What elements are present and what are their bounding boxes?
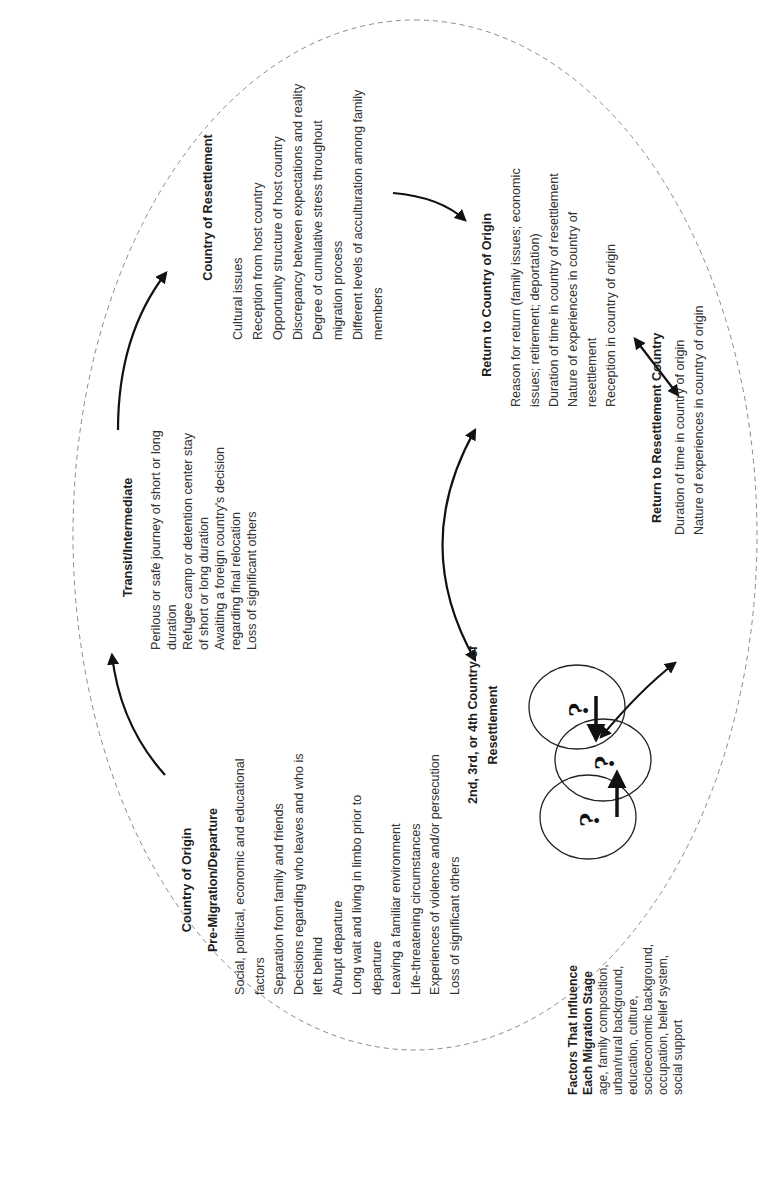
factors-title: Factors That Influence [566, 895, 581, 1095]
factors-line: occupation, belief system, [656, 895, 671, 1095]
list-item: Degree of cumulative stress throughout m… [308, 75, 348, 340]
list-item: Awaiting a foreign country's decision re… [212, 425, 244, 650]
question-mark-icon: ? [587, 755, 620, 770]
factors-title-line-2: Each Migration Stage [581, 895, 596, 1095]
list-item: Nature of experiences in country of orig… [690, 275, 709, 535]
list-item: Social, political, economic and educatio… [231, 745, 270, 995]
stage-item-list: Perilous or safe journey of short or lon… [148, 425, 260, 650]
stage-title: Transit/Intermediate [120, 425, 136, 650]
stage-country-of-origin: Country of Origin Pre-Migration/Departur… [178, 655, 465, 995]
list-item: Abrupt departure [329, 745, 349, 995]
stage-item-list: Cultural issues Reception from host coun… [228, 75, 388, 340]
stage-item-list: Duration of time in country of origin Na… [671, 275, 709, 535]
list-item: Separation from family and friends [270, 745, 290, 995]
factors-line: education, culture, [626, 895, 641, 1095]
double-arrow-circles-to-return-resettlement [601, 663, 675, 737]
arrow-resettlement-to-return [393, 193, 465, 220]
list-item: Cultural issues [228, 75, 248, 340]
stage-title-line-2: Resettlement [483, 645, 503, 805]
stage-title: Country of Resettlement [198, 75, 218, 340]
list-item: Discrepancy between expectations and rea… [288, 75, 308, 340]
stage-subtitle: Pre-Migration/Departure [204, 765, 224, 995]
stage-nth-resettlement: 2nd, 3rd, or 4th Country of Resettlement [463, 645, 503, 805]
list-item: Different levels of acculturation among … [348, 75, 388, 340]
list-item: Reception in country of origin [602, 165, 621, 407]
list-item: Perilous or safe journey of short or lon… [148, 425, 180, 650]
question-mark-icon: ? [572, 812, 605, 827]
list-item: Duration of time in country of origin [671, 275, 690, 535]
stage-return-to-resettlement: Return to Resettlement Country Duration … [648, 275, 709, 535]
stage-transit: Transit/Intermediate Perilous or safe jo… [120, 425, 260, 650]
factors-line: social support [671, 895, 686, 1095]
question-mark-icon: ? [561, 702, 594, 717]
list-item: Reception from host country [248, 75, 268, 340]
arrow-transit-to-resettlement [118, 273, 166, 430]
stage-title: Country of Origin [178, 765, 198, 995]
stage-item-list: Social, political, economic and educatio… [231, 745, 465, 995]
arrow-origin-to-transit [112, 655, 165, 775]
factors-line: age, family composition, [596, 895, 611, 1095]
factors-line: urban/rural background, [611, 895, 626, 1095]
list-item: Opportunity structure of host country [268, 75, 288, 340]
stage-title: Return to Country of Origin [478, 165, 497, 425]
migration-stages-diagram: ? ? ? Country of Origin Pre-Migration/De… [0, 0, 760, 1195]
factors-legend: Factors That Influence Each Migration St… [566, 895, 686, 1095]
double-arrow-return-to-nth-resettlement [443, 430, 476, 660]
list-item: Refugee camp or detention center stay of… [180, 425, 212, 650]
list-item: Reason for return (family issues; econom… [507, 165, 545, 407]
factors-line: socioeconomic background, [641, 895, 656, 1095]
stage-country-of-resettlement: Country of Resettlement Cultural issues … [198, 75, 388, 340]
list-item: Decisions regarding who leaves and who i… [290, 745, 329, 995]
list-item: Experiences of violence and/or persecuti… [426, 745, 446, 995]
stage-title: 2nd, 3rd, or 4th Country of [463, 645, 483, 805]
list-item: Nature of experiences in country of rese… [564, 165, 602, 407]
stage-return-to-origin: Return to Country of Origin Reason for r… [478, 165, 621, 425]
list-item: Leaving a familiar environment [387, 745, 407, 995]
nth-resettlement-circles: ? ? ? [529, 665, 651, 859]
list-item: Long wait and living in limbo prior to d… [348, 745, 387, 995]
stage-item-list: Reason for return (family issues; econom… [507, 165, 621, 425]
list-item: Duration of time in country of resettlem… [545, 165, 564, 407]
list-item: Loss of significant others [244, 425, 260, 650]
list-item: Life-threatening circumstances [407, 745, 427, 995]
stage-title: Return to Resettlement Country [648, 275, 667, 535]
